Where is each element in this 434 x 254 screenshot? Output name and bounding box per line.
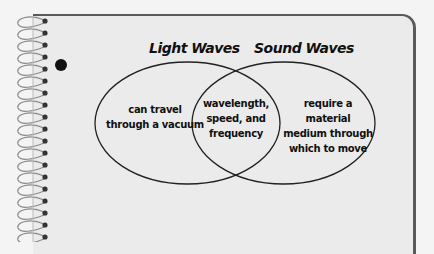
sound-waves-unique-text: require a material medium through which …: [280, 96, 376, 156]
intersection-text: wavelength, speed, and frequency: [196, 96, 276, 141]
light-waves-title: Light Waves: [149, 40, 240, 56]
sound-waves-title: Sound Waves: [254, 40, 354, 56]
light-waves-unique-text: can travel through a vacuum: [105, 102, 205, 132]
